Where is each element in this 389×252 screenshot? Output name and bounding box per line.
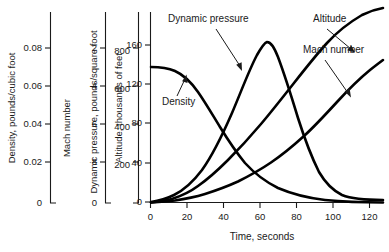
altitude-ticklabel-4: 160 — [126, 39, 142, 50]
altitude-ticklabel-1: 40 — [131, 157, 142, 168]
time-axis: 0 20 40 60 80 100 120 Time, seconds — [148, 203, 383, 243]
time-ticklabel-6: 120 — [362, 211, 378, 222]
dynamic-pressure-curve — [151, 42, 383, 202]
density-ticklabel-4: 0.08 — [24, 42, 43, 53]
time-ticklabel-0: 0 — [148, 211, 153, 222]
mach-number-axis: 2 4 6 8 0 Mach number — [61, 12, 111, 208]
annotation-arrow-dynamic-pressure — [236, 62, 242, 71]
altitude-ticklabel-0: 0 — [137, 196, 142, 207]
chart-canvas: 0.08 0.06 0.04 0.02 0 Density, pounds/cu… — [0, 0, 389, 252]
mach-number-axis-line — [106, 12, 112, 203]
density-ticklabel-0: 0 — [37, 197, 42, 208]
density-axis-title: Density, pounds/cubic foot — [6, 52, 17, 163]
altitude-ticklabel-3: 120 — [126, 78, 142, 89]
time-ticklabel-3: 60 — [255, 211, 266, 222]
altitude-axis: 160 120 80 40 0 Altitude, thousands of f… — [113, 12, 151, 207]
trajectory-parameters-chart: 0.08 0.06 0.04 0.02 0 Density, pounds/cu… — [0, 0, 389, 252]
annotation-label-altitude: Altitude — [313, 13, 347, 24]
dynamic-pressure-axis-title: Dynamic pressure, pounds/square foot — [88, 30, 99, 194]
density-curve — [151, 67, 383, 203]
density-axis-line — [51, 12, 57, 203]
mach-number-ticklabel-4: 0 — [92, 197, 97, 208]
time-axis-title: Time, seconds — [230, 231, 295, 242]
time-ticklabel-5: 100 — [325, 211, 341, 222]
annotation-label-mach-number: Mach number — [303, 44, 365, 55]
density-ticklabel-1: 0.02 — [24, 156, 43, 167]
time-ticklabel-2: 40 — [218, 211, 229, 222]
mach-number-axis-title: Mach number — [61, 99, 72, 157]
annotations-group: Dynamic pressure Density Altitude Mach n… — [162, 13, 365, 107]
annotation-label-density: Density — [162, 96, 195, 107]
density-ticklabel-2: 0.04 — [24, 118, 43, 129]
annotation-leader-dynamic-pressure — [216, 29, 240, 66]
time-ticklabel-1: 20 — [182, 211, 193, 222]
time-ticklabel-4: 80 — [291, 211, 302, 222]
density-ticklabel-3: 0.06 — [24, 80, 43, 91]
annotation-leader-mach-number — [325, 60, 348, 93]
altitude-ticklabel-2: 80 — [131, 117, 142, 128]
annotation-label-dynamic-pressure: Dynamic pressure — [168, 13, 249, 24]
density-axis: 0.08 0.06 0.04 0.02 0 Density, pounds/cu… — [6, 12, 56, 208]
altitude-axis-title: Altitude, thousands of feet — [113, 53, 124, 163]
